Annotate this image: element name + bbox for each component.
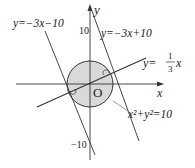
y-tick-10: 10 (79, 25, 89, 36)
svg-text:1: 1 (168, 51, 173, 61)
label-line-upper: y=−3x+10 (100, 27, 152, 40)
label-circle-equation: x²+y²=10 (127, 108, 172, 121)
x-axis-label: x (156, 86, 163, 100)
y-axis-label: y (92, 2, 100, 17)
svg-text:3: 3 (168, 64, 173, 74)
svg-text:x: x (175, 56, 182, 70)
label-line-diameter: y= 1 3 x (142, 51, 182, 74)
circle-label-leader (113, 101, 128, 111)
y-axis-arrow-icon (88, 4, 93, 11)
svg-text:y=: y= (142, 56, 156, 70)
coordinate-diagram: y x O 10 −10 y=−3x−10 y=−3x+10 y= 1 3 x … (0, 0, 195, 168)
origin-label: O (93, 85, 102, 100)
y-tick-neg10: −10 (71, 139, 87, 150)
label-line-lower: y=−3x−10 (12, 17, 64, 30)
